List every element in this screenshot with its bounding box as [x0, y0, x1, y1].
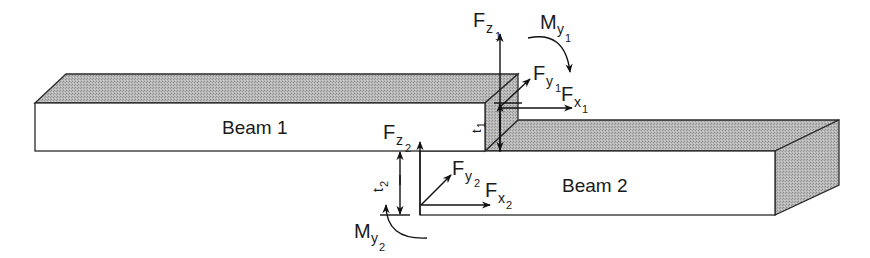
svg-text:F: F [452, 157, 464, 179]
svg-text:t: t [469, 129, 484, 133]
svg-text:1: 1 [476, 122, 487, 128]
my2-label: M y 2 [354, 220, 385, 253]
svg-text:y: y [557, 21, 564, 37]
svg-text:F: F [473, 9, 485, 31]
fx1-label: F x 1 [561, 83, 588, 115]
svg-text:y: y [371, 230, 378, 246]
svg-text:x: x [498, 190, 505, 206]
svg-text:z: z [486, 20, 493, 36]
svg-text:2: 2 [405, 142, 411, 154]
svg-text:y: y [546, 73, 553, 89]
t2-label: t 2 [370, 181, 390, 192]
fz1-label: F z 1 [473, 9, 501, 42]
svg-text:M: M [354, 220, 371, 242]
svg-text:M: M [540, 11, 557, 33]
svg-text:2: 2 [506, 199, 512, 211]
beam-1-label: Beam 1 [222, 117, 287, 138]
svg-text:z: z [396, 132, 403, 148]
svg-text:F: F [485, 179, 497, 201]
beam-1 [35, 74, 518, 151]
svg-text:t: t [370, 188, 386, 192]
svg-text:2: 2 [379, 241, 385, 253]
beam-2-label: Beam 2 [562, 175, 627, 196]
svg-text:x: x [574, 94, 581, 110]
svg-text:F: F [533, 62, 545, 84]
svg-text:y: y [465, 168, 472, 184]
svg-text:2: 2 [474, 177, 480, 189]
svg-text:F: F [383, 121, 395, 143]
fy1-label: F y 1 [533, 62, 561, 94]
svg-text:1: 1 [565, 32, 571, 44]
beam-1-top-face [35, 74, 518, 103]
my1-label: M y 1 [540, 11, 571, 44]
svg-text:F: F [561, 83, 573, 105]
beam-joint-diagram: Beam 1 Beam 2 t 1 F z 1 M y 1 F y 1 F x … [0, 0, 870, 258]
svg-text:2: 2 [378, 181, 390, 187]
svg-text:1: 1 [582, 103, 588, 115]
svg-text:1: 1 [495, 30, 501, 42]
